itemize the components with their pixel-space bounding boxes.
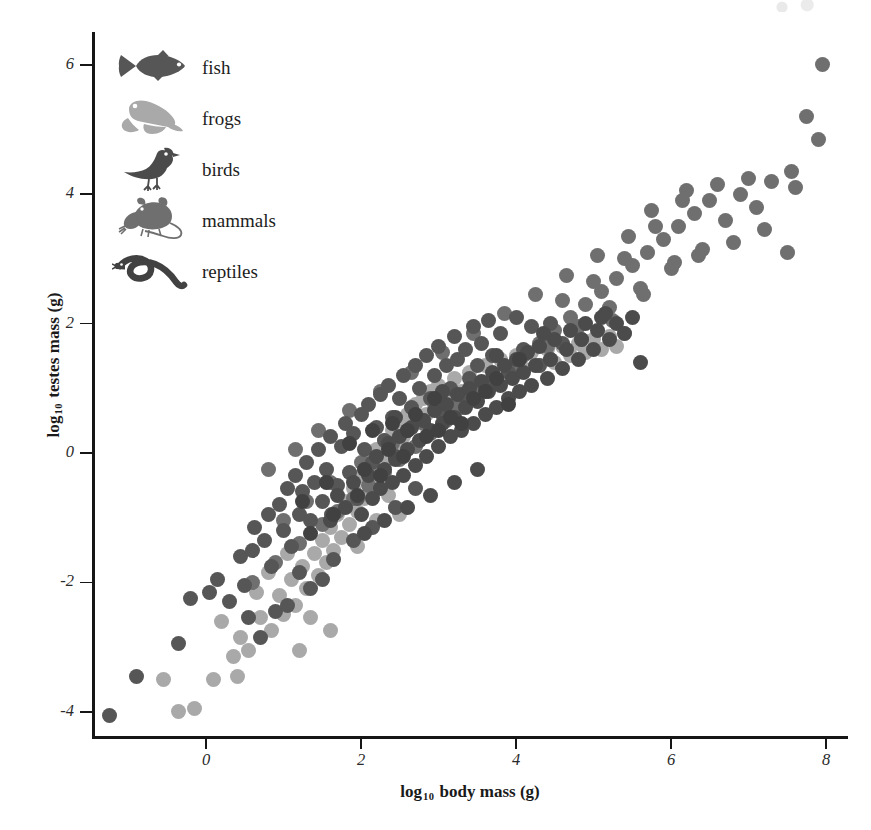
data-point-fish (183, 591, 198, 606)
data-point-mammals (621, 229, 636, 244)
data-point-birds (625, 310, 640, 325)
data-point-reptiles (357, 462, 372, 477)
legend-item-mammals[interactable]: mammals (110, 195, 340, 246)
data-point-birds (633, 355, 648, 370)
data-point-fish (280, 598, 295, 613)
legend-item-label: frogs (202, 108, 241, 130)
data-point-birds (598, 306, 613, 321)
data-point-fish (264, 559, 279, 574)
fish-icon (110, 42, 192, 90)
data-point-birds (524, 378, 539, 393)
data-point-mammals (586, 274, 601, 289)
bird-icon (110, 144, 192, 192)
data-point-fish (315, 572, 330, 587)
legend-item-birds[interactable]: birds (110, 144, 340, 195)
data-point-mammals (784, 164, 799, 179)
data-point-mammals (261, 462, 276, 477)
data-point-mammals (741, 171, 756, 186)
mammal-icon (110, 195, 192, 243)
data-point-fish (288, 468, 303, 483)
y-axis-title-prefix: log (44, 416, 63, 438)
data-point-mammals (555, 293, 570, 308)
data-point-birds (330, 488, 345, 503)
data-point-fish (458, 342, 473, 357)
data-point-birds (536, 326, 551, 341)
data-point-reptiles (396, 449, 411, 464)
legend-item-reptiles[interactable]: reptiles (110, 246, 340, 297)
data-point-frogs (187, 701, 202, 716)
frog-icon (110, 93, 192, 141)
x-axis-title-subscript: 10 (422, 791, 435, 802)
data-point-mammals (749, 200, 764, 215)
data-point-fish (253, 630, 268, 645)
legend-item-label: birds (202, 159, 240, 181)
y-axis-title-suffix: testes mass (g) (44, 292, 63, 402)
data-point-mammals (799, 109, 814, 124)
x-axis-title-prefix: log (400, 782, 422, 801)
data-point-mammals (636, 287, 651, 302)
data-point-frogs (206, 672, 221, 687)
data-point-mammals (590, 248, 605, 263)
data-point-fish (241, 610, 256, 625)
data-point-birds (377, 513, 392, 528)
data-point-birds (423, 488, 438, 503)
data-point-reptiles (385, 416, 400, 431)
y-axis-title: log10 testes mass (g) (44, 215, 64, 515)
data-point-fish (474, 336, 489, 351)
legend-item-label: mammals (202, 210, 276, 232)
data-point-mammals (609, 271, 624, 286)
data-point-birds (447, 475, 462, 490)
data-point-mammals (675, 193, 690, 208)
data-point-mammals (578, 297, 593, 312)
data-point-fish (493, 326, 508, 341)
data-point-mammals (691, 248, 706, 263)
data-point-mammals (671, 219, 686, 234)
data-point-frogs (323, 623, 338, 638)
data-point-mammals (764, 174, 779, 189)
data-point-reptiles (373, 468, 388, 483)
legend-item-fish[interactable]: fish (110, 42, 340, 93)
data-point-mammals (757, 222, 772, 237)
data-point-mammals (656, 232, 671, 247)
x-axis-title-suffix: body mass (g) (435, 782, 539, 801)
data-point-fish (257, 533, 272, 548)
data-point-fish (129, 669, 144, 684)
data-point-birds (528, 358, 543, 373)
data-point-mammals (640, 245, 655, 260)
data-point-mammals (726, 235, 741, 250)
data-point-fish (210, 572, 225, 587)
data-point-fish (171, 636, 186, 651)
data-point-reptiles (427, 391, 442, 406)
data-point-mammals (710, 177, 725, 192)
data-point-fish (292, 565, 307, 580)
data-point-reptiles (400, 423, 415, 438)
data-point-reptiles (365, 423, 380, 438)
data-point-fish (272, 497, 287, 512)
data-point-reptiles (350, 488, 365, 503)
data-point-frogs (230, 669, 245, 684)
scatter-plot-figure: 6420-2-4 02468 log10 testes mass (g) log… (0, 0, 871, 830)
y-axis-title-subscript: 10 (53, 402, 64, 415)
legend-item-frogs[interactable]: frogs (110, 93, 340, 144)
data-point-fish (447, 329, 462, 344)
data-point-fish (299, 455, 314, 470)
x-axis-title: log10 body mass (g) (92, 782, 848, 802)
data-point-mammals (528, 287, 543, 302)
data-point-mammals (811, 132, 826, 147)
data-point-mammals (815, 57, 830, 72)
data-point-fish (408, 481, 423, 496)
data-point-fish (509, 310, 524, 325)
data-point-birds (470, 462, 485, 477)
snake-icon (110, 246, 192, 294)
data-point-birds (540, 371, 555, 386)
data-point-mammals (667, 255, 682, 270)
data-point-mammals (559, 268, 574, 283)
data-point-birds (354, 507, 369, 522)
data-point-reptiles (431, 423, 446, 438)
legend-item-label: fish (202, 57, 231, 79)
data-point-fish (284, 539, 299, 554)
data-point-birds (602, 332, 617, 347)
data-point-birds (617, 326, 632, 341)
data-point-reptiles (478, 384, 493, 399)
data-point-mammals (780, 245, 795, 260)
